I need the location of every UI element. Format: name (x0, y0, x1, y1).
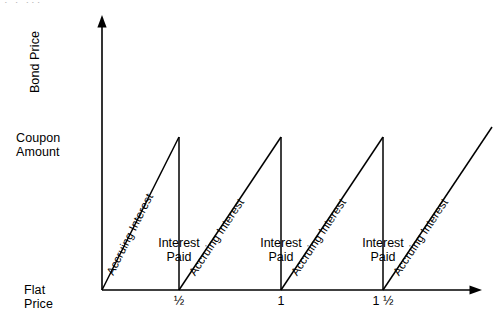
x-tick-label-one: 1 (261, 294, 301, 308)
y-axis (97, 15, 106, 290)
y-tick-label-flat-price: Flat Price (24, 283, 92, 311)
sawtooth-bond-price-chart (0, 0, 502, 330)
y-axis-title: Bond Price (28, 12, 42, 112)
annotation-interest-paid-1: Interest Paid (139, 236, 219, 264)
y-tick-label-coupon-amount: Coupon Amount (16, 131, 92, 159)
x-tick-label-one-and-half: 1 ½ (361, 294, 405, 308)
annotation-interest-paid-2: Interest Paid (241, 236, 321, 264)
annotation-interest-paid-3: Interest Paid (343, 236, 423, 264)
x-tick-label-half: ½ (159, 294, 199, 308)
